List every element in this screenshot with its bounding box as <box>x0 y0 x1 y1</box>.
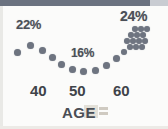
cluster-dot <box>140 32 146 38</box>
cluster-dot <box>142 38 148 44</box>
curve-dot <box>49 54 56 61</box>
cluster-dot <box>139 44 145 50</box>
axis-tick-50: 50 <box>69 82 86 99</box>
curve-dot <box>58 61 65 68</box>
axis-title-artifact-3 <box>99 112 108 115</box>
left-peak-label: 22% <box>16 17 41 32</box>
curve-dot <box>39 47 46 54</box>
curve-dot <box>80 68 87 75</box>
axis-title-age: AGE <box>62 104 96 121</box>
curve-dot <box>113 55 120 62</box>
trough-label: 16% <box>71 46 94 60</box>
cluster-dot <box>144 26 150 32</box>
axis-title-artifact-2 <box>99 107 108 110</box>
axis-tick-60: 60 <box>113 82 130 99</box>
curve-dot <box>69 66 76 73</box>
cluster-dot <box>121 49 127 55</box>
curve-dot <box>27 42 34 49</box>
scatter-plot-area: 22% 24% 16% 40 50 60 AGE <box>0 6 168 129</box>
curve-dot <box>103 62 110 69</box>
right-peak-label: 24% <box>120 8 147 24</box>
chart-screenshot: 22% 24% 16% 40 50 60 AGE <box>0 0 168 129</box>
axis-tick-40: 40 <box>30 82 47 99</box>
curve-dot <box>92 67 99 74</box>
curve-dot <box>14 49 21 56</box>
